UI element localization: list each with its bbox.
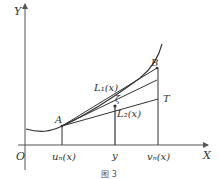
label-L1: L₁(x) [93,82,118,93]
mean-value-diagram: Y X O A B T ζ L₁(x) L₂(x) uₙ(x) y vₙ(x) … [0,0,218,179]
label-B: B [150,57,158,68]
tick-label-v: vₙ(x) [147,151,170,162]
label-T: T [163,93,171,104]
label-zeta: ζ [115,94,121,104]
y-axis-label: Y [14,5,23,18]
x-axis-label: X [202,149,212,162]
chord-L1 [62,68,157,126]
tick-label-u: uₙ(x) [52,151,76,162]
figure-caption: 图 3 [0,170,218,179]
tick-label-y: y [111,150,118,161]
diagram-canvas: Y X O A B T ζ L₁(x) L₂(x) uₙ(x) y vₙ(x) [0,0,218,179]
label-A: A [54,114,62,125]
label-L2: L₂(x) [116,108,141,119]
origin-label: O [16,150,25,163]
point-A [61,125,64,128]
